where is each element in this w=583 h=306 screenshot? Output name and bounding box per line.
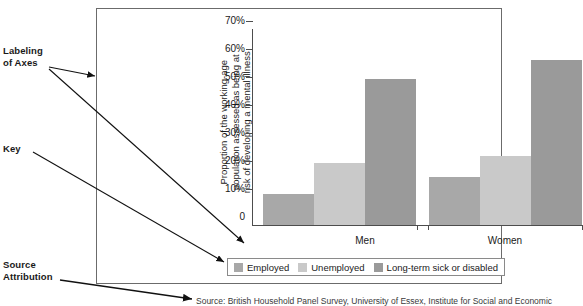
arrow-key-to-legend bbox=[33, 152, 224, 262]
arrow-source-to-text bbox=[60, 280, 192, 299]
bar-women-longterm-sick bbox=[531, 60, 582, 225]
